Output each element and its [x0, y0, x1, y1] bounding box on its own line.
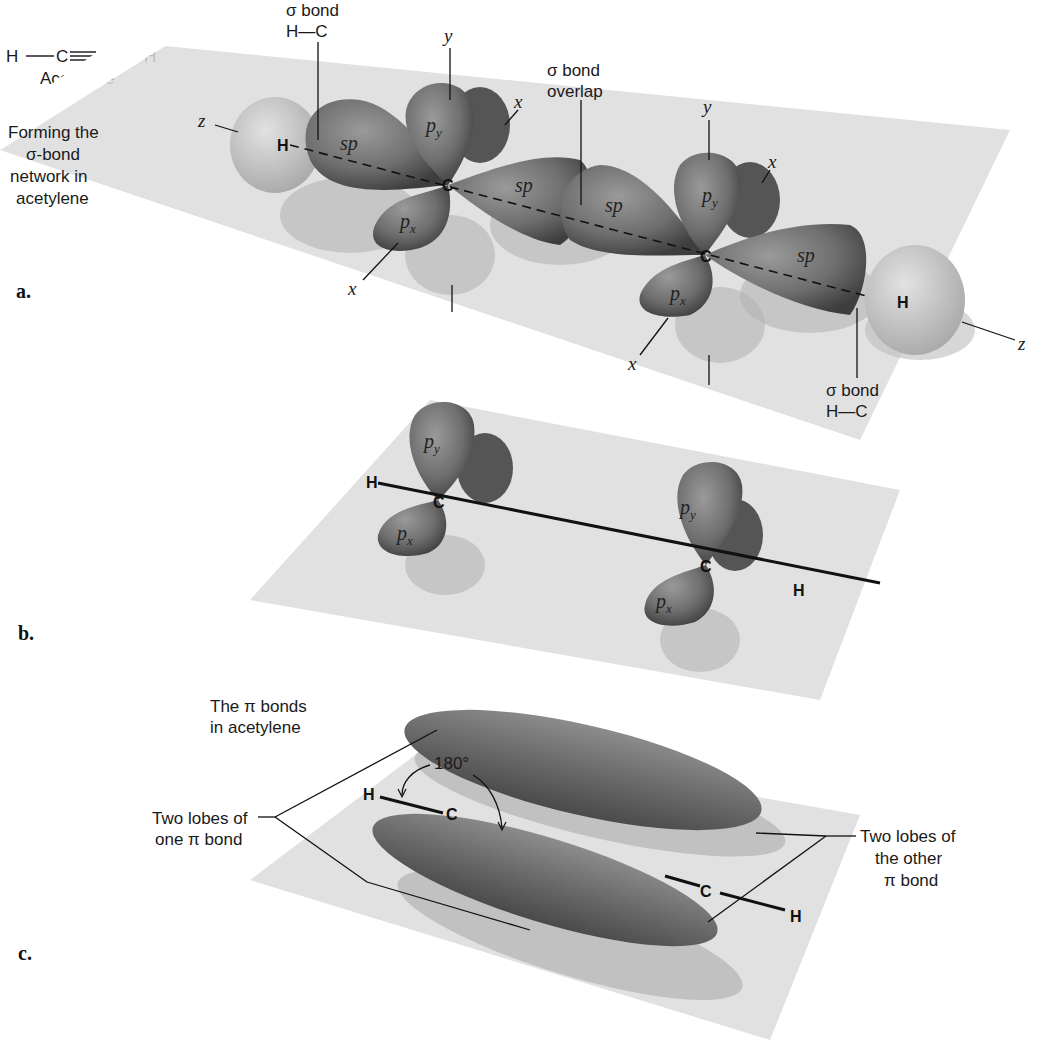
- axis-x-right-back: x: [767, 151, 777, 172]
- hydrogen-1s-right: [865, 245, 965, 355]
- c-atom-c-left: C: [446, 806, 458, 823]
- b-atom-c-left: C: [433, 494, 445, 511]
- atom-c-left: C: [442, 177, 454, 194]
- axis-z-right: z: [1017, 333, 1026, 354]
- atom-h-right: H: [897, 294, 909, 311]
- angle-label: 180°: [434, 754, 469, 773]
- panel-a-label: a.: [16, 280, 31, 302]
- axis-z-left: z: [197, 110, 206, 131]
- axis-x-right-front: x: [627, 353, 637, 374]
- orbital-label-sp-3: sp: [605, 194, 623, 217]
- svg-text:H—C: H—C: [286, 22, 328, 41]
- b-atom-h-left: H: [366, 474, 378, 491]
- panel-b: b. H C C H py px py px: [18, 400, 900, 700]
- panel-b-label: b.: [18, 622, 34, 644]
- svg-text:Forming the: Forming the: [8, 123, 99, 142]
- svg-text:σ bond: σ bond: [547, 61, 600, 80]
- c-atom-c-right: C: [700, 883, 712, 900]
- axis-x-left-front: x: [347, 278, 357, 299]
- svg-text:overlap: overlap: [547, 82, 603, 101]
- svg-text:H—C: H—C: [826, 402, 868, 421]
- b-atom-c-right: C: [700, 558, 712, 575]
- axis-x-left-back: x: [513, 91, 523, 112]
- panel-c: c. The π bonds in acetylene H C C H 180°…: [18, 685, 956, 1040]
- panel-c-title: The π bonds in acetylene: [210, 697, 307, 737]
- panel-c-label: c.: [18, 942, 32, 964]
- svg-text:σ-bond: σ-bond: [26, 145, 80, 164]
- b-atom-h-right: H: [793, 582, 805, 599]
- c-atom-h-right: H: [790, 908, 802, 925]
- acetylene-orbital-figure: H C C H Acetylene Forming the σ-bond net…: [0, 0, 1040, 1042]
- svg-text:acetylene: acetylene: [16, 189, 89, 208]
- formula-h-left: H: [6, 47, 18, 66]
- orbital-label-sp-2: sp: [515, 174, 533, 197]
- axis-y-left: y: [442, 25, 453, 46]
- svg-text:σ bond: σ bond: [826, 381, 879, 400]
- svg-text:Two lobes of: Two lobes of: [860, 827, 956, 846]
- svg-text:Two lobes of: Two lobes of: [152, 809, 248, 828]
- orbital-label-sp-4: sp: [797, 244, 815, 267]
- svg-text:π bond: π bond: [884, 871, 938, 890]
- formula-c-left: C: [56, 47, 68, 66]
- panel-a: Forming the σ-bond network in acetylene …: [0, 1, 1026, 440]
- axis-y-right: y: [701, 96, 712, 117]
- svg-text:the other: the other: [875, 849, 942, 868]
- panel-b-plane: [250, 400, 900, 700]
- c-atom-h-left: H: [363, 786, 375, 803]
- svg-text:one π bond: one π bond: [155, 830, 242, 849]
- svg-text:σ bond: σ bond: [286, 1, 339, 20]
- orbital-label-sp-1: sp: [340, 132, 358, 155]
- svg-text:network in: network in: [10, 167, 87, 186]
- atom-c-right: C: [700, 248, 712, 265]
- svg-text:The π bonds: The π bonds: [210, 697, 307, 716]
- atom-h-left: H: [277, 137, 289, 154]
- svg-text:in acetylene: in acetylene: [210, 718, 301, 737]
